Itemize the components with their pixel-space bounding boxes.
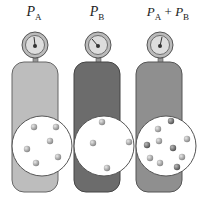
gas-tanks-diagram <box>0 0 204 202</box>
tank-b <box>74 32 134 192</box>
tank-a-plus-b <box>136 32 196 192</box>
tank-a <box>12 32 72 192</box>
